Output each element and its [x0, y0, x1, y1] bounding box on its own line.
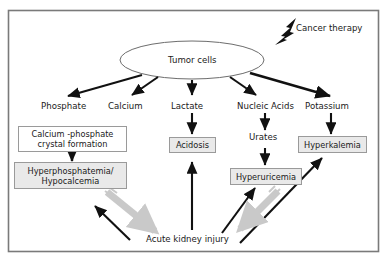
cancer-therapy-lightning-icon: [275, 18, 296, 45]
acute-kidney-injury-label: Acute kidney injury: [146, 234, 229, 244]
box-calcium-phosphate-crystal: Calcium -phosphatecrystal formation: [18, 126, 127, 152]
arrow-tumor-to-phosphate: [68, 75, 142, 96]
release-label-potassium: Potassium: [305, 101, 349, 111]
gray-arrow-hyperphosphatemia-to-injury: [105, 188, 155, 231]
box-hyperkalemia: Hyperkalemia: [298, 136, 367, 153]
release-label-nucleic-acids: Nucleic Acids: [237, 101, 294, 111]
box-hyperphosphatemia-hypocalcemia: Hyperphosphatemia/Hypocalcemia: [14, 162, 127, 189]
arrow-tumor-to-nucleic-acids: [230, 77, 256, 95]
box-hyperuricemia: Hyperuricemia: [230, 168, 302, 185]
arrow-injury-to-crystal-box: [95, 206, 130, 240]
cancer-therapy-label: Cancer therapy: [296, 23, 362, 33]
diagram-canvas: Cancer therapy Tumor cells Phosphate Cal…: [0, 0, 389, 276]
arrow-tumor-to-potassium: [250, 73, 330, 96]
release-label-calcium: Calcium: [108, 101, 143, 111]
release-label-lactate: Lactate: [171, 101, 203, 111]
release-label-phosphate: Phosphate: [41, 101, 86, 111]
tumor-cells-label: Tumor cells: [168, 55, 217, 65]
box-acidosis: Acidosis: [169, 137, 216, 153]
arrow-tumor-to-calcium: [132, 77, 158, 95]
intermediate-label-urates: Urates: [249, 132, 277, 142]
